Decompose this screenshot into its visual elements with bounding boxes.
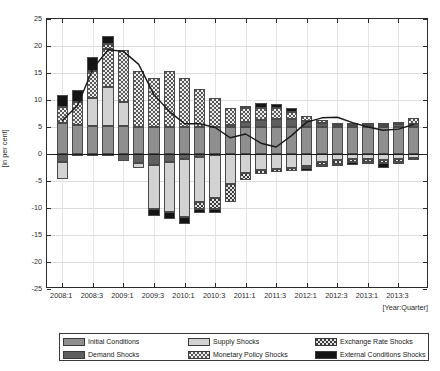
y-tick-label: 0 <box>38 150 42 157</box>
x-tick-mark <box>246 283 247 287</box>
bar-segment-initial <box>72 125 83 154</box>
bar-stack[interactable] <box>209 19 220 287</box>
bar-stack[interactable] <box>72 19 83 287</box>
bar-segment-demand <box>255 120 266 127</box>
x-tick-mark <box>93 19 94 23</box>
bar-segment-external <box>362 162 373 165</box>
bar-segment-supply <box>148 165 159 209</box>
bar-segment-exchange <box>225 184 236 202</box>
y-axis-label: [in per cent] <box>0 129 9 167</box>
bar-stack[interactable] <box>240 19 251 287</box>
bar-segment-supply <box>286 154 297 168</box>
y-tick-mark <box>423 127 427 128</box>
bar-stack[interactable] <box>332 19 343 287</box>
bar-stack[interactable] <box>179 19 190 287</box>
bar-stack[interactable] <box>408 19 419 287</box>
bar-segment-supply <box>240 154 251 173</box>
bar-segment-demand <box>316 123 327 127</box>
y-tick-mark <box>47 289 51 290</box>
bar-stack[interactable] <box>301 19 312 287</box>
bar-stack[interactable] <box>148 19 159 287</box>
bar-stack[interactable] <box>362 19 373 287</box>
bar-stack[interactable] <box>393 19 404 287</box>
legend-item[interactable]: Initial Conditions <box>63 338 188 346</box>
bar-segment-monetary <box>72 102 83 125</box>
bar-segment-monetary <box>286 112 297 120</box>
y-tick-mark <box>47 208 51 209</box>
bar-stack[interactable] <box>118 19 129 287</box>
bar-stack[interactable] <box>164 19 175 287</box>
bar-segment-initial <box>102 126 113 154</box>
legend-item[interactable]: Monetary Policy Shocks <box>188 351 315 359</box>
legend-item[interactable]: Supply Shocks <box>188 338 315 346</box>
bar-stack[interactable] <box>87 19 98 287</box>
bar-segment-supply <box>316 154 327 162</box>
bar-segment-external <box>316 165 327 168</box>
bar-segment-supply <box>57 162 68 180</box>
bar-segment-external <box>255 103 266 108</box>
bar-segment-monetary <box>225 108 236 126</box>
x-tick-label: 2009:3 <box>142 292 164 300</box>
x-axis-label: [Year:Quarter] <box>382 303 428 312</box>
bar-stack[interactable] <box>347 19 358 287</box>
legend-label: Exchange Rate Shocks <box>340 338 413 346</box>
legend-label: Initial Conditions <box>88 338 139 346</box>
bar-segment-exchange <box>286 168 297 171</box>
bar-segment-monetary <box>255 108 266 120</box>
bar-segment-monetary <box>332 123 343 125</box>
legend-swatch-icon <box>188 338 210 346</box>
bar-stack[interactable] <box>194 19 205 287</box>
bar-stack[interactable] <box>255 19 266 287</box>
legend-item[interactable]: External Conditions Shocks <box>315 351 426 359</box>
bar-segment-monetary <box>347 123 358 125</box>
bar-stack[interactable] <box>286 19 297 287</box>
x-tick-mark <box>185 283 186 287</box>
bar-segment-demand <box>347 125 358 127</box>
legend-label: Demand Shocks <box>88 351 139 359</box>
bar-segment-demand <box>301 121 312 127</box>
bar-segment-monetary <box>240 108 251 122</box>
y-tick-mark <box>47 73 51 74</box>
bar-segment-initial <box>316 127 327 154</box>
x-tick-label: 2010:3 <box>203 292 225 300</box>
bar-stack[interactable] <box>102 19 113 287</box>
y-tick-label: -15 <box>31 231 42 238</box>
y-tick-mark <box>423 73 427 74</box>
bar-segment-external <box>148 209 159 215</box>
bar-segment-monetary <box>57 107 68 123</box>
bar-segment-external <box>378 163 389 168</box>
bar-stack[interactable] <box>378 19 389 287</box>
bar-segment-external <box>194 209 205 213</box>
legend-label: External Conditions Shocks <box>340 351 426 359</box>
bar-segment-supply <box>301 154 312 166</box>
y-tick-mark <box>47 19 51 20</box>
bar-segment-initial <box>378 127 389 154</box>
y-tick-label: 5 <box>38 123 42 130</box>
bar-stack[interactable] <box>271 19 282 287</box>
bar-segment-initial <box>408 127 419 154</box>
bar-stack[interactable] <box>133 19 144 287</box>
bar-segment-external <box>286 108 297 112</box>
bar-segment-initial <box>133 127 144 154</box>
x-tick-mark <box>62 283 63 287</box>
bar-segment-external <box>347 162 358 165</box>
bar-segment-external <box>102 36 113 44</box>
bar-segment-supply <box>255 154 266 170</box>
legend-item[interactable]: Exchange Rate Shocks <box>315 338 426 346</box>
bar-stack[interactable] <box>225 19 236 287</box>
bar-segment-exchange <box>408 158 419 160</box>
bar-segment-monetary <box>209 98 220 127</box>
bar-segment-demand <box>286 119 297 127</box>
bar-segment-supply <box>271 154 282 169</box>
y-tick-mark <box>47 127 51 128</box>
y-tick-mark <box>47 181 51 182</box>
bar-segment-initial <box>393 127 404 154</box>
bar-segment-external <box>393 162 404 164</box>
legend-item[interactable]: Demand Shocks <box>63 351 188 359</box>
x-tick-mark <box>337 19 338 23</box>
bar-segment-initial <box>57 123 68 154</box>
bar-stack[interactable] <box>57 19 68 287</box>
bar-stack[interactable] <box>316 19 327 287</box>
bar-segment-external <box>301 168 312 171</box>
bar-segment-demand <box>271 119 282 127</box>
